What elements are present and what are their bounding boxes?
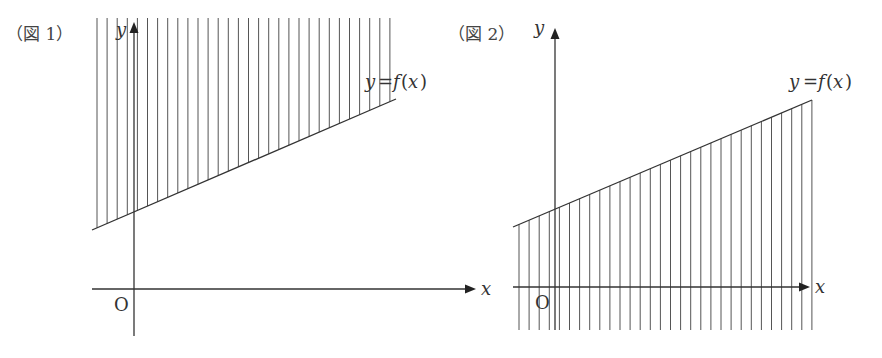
svg-text:): ) bbox=[420, 71, 427, 92]
figure-1-hatching bbox=[97, 18, 390, 228]
figure-1-curve-label: y = f ( x ) bbox=[364, 71, 427, 92]
figure-2: （図 2） y x O y = f ( x ) bbox=[448, 17, 852, 330]
svg-text:x: x bbox=[408, 71, 418, 92]
svg-text:(: ( bbox=[826, 71, 833, 92]
figure-1-x-label: x bbox=[481, 278, 491, 299]
figure-2-origin-label: O bbox=[535, 292, 550, 313]
svg-text:y: y bbox=[788, 71, 800, 92]
figures-canvas: （図 1） y x O y = f ( x ) （図 2） y x O y = bbox=[0, 0, 882, 358]
svg-text:y: y bbox=[364, 71, 376, 92]
svg-text:): ) bbox=[845, 71, 852, 92]
figure-2-x-label: x bbox=[815, 276, 825, 297]
svg-text:(: ( bbox=[401, 71, 408, 92]
figure-2-caption: （図 2） bbox=[448, 24, 515, 44]
figure-1-origin-label: O bbox=[114, 294, 129, 315]
figure-2-y-label: y bbox=[533, 17, 545, 38]
figure-2-y-axis-arrow-icon bbox=[551, 28, 560, 39]
figure-1-caption: （図 1） bbox=[6, 24, 73, 44]
figure-2-function-line bbox=[513, 100, 812, 227]
figure-2-curve-label: y = f ( x ) bbox=[788, 71, 852, 92]
figure-1-x-axis-arrow-icon bbox=[465, 285, 476, 294]
figure-2-hatching bbox=[519, 100, 812, 330]
svg-text:x: x bbox=[833, 71, 843, 92]
svg-text:=: = bbox=[378, 71, 393, 92]
figure-1-y-label: y bbox=[115, 19, 127, 40]
svg-text:=: = bbox=[803, 71, 818, 92]
figure-2-x-axis-arrow-icon bbox=[799, 283, 810, 292]
figure-1: （図 1） y x O y = f ( x ) bbox=[6, 18, 491, 336]
